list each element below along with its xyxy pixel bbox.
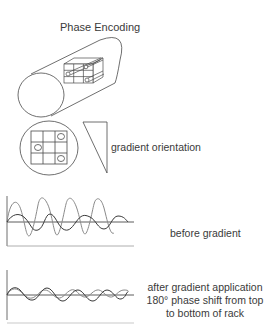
after-label-line2: 180° phase shift from top <box>143 294 267 307</box>
gradient-wedge-icon <box>83 122 107 173</box>
after-label-line3: to bottom of rack <box>143 307 267 320</box>
plot-before-gradient <box>7 196 134 246</box>
rack-cross-section <box>20 121 78 175</box>
before-gradient-label: before gradient <box>170 227 241 239</box>
phase-encoding-diagram: Phase Encoding gradient orientation befo… <box>0 0 268 328</box>
after-gradient-label: after gradient application 180° phase sh… <box>143 281 267 320</box>
diagram-title: Phase Encoding <box>60 21 140 33</box>
after-label-line1: after gradient application <box>143 281 267 294</box>
wave-phase-shifted <box>7 288 128 301</box>
sample-rack-cube <box>64 58 104 83</box>
plot-after-gradient <box>7 270 134 323</box>
gradient-orientation-label: gradient orientation <box>111 141 201 153</box>
